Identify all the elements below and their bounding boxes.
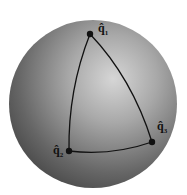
sphere [9, 20, 177, 188]
point-q1 [87, 31, 93, 37]
point-q3 [149, 139, 155, 145]
sphere-diagram: q̂1 q̂2 q̂3 [0, 0, 187, 195]
point-q2 [66, 148, 72, 154]
